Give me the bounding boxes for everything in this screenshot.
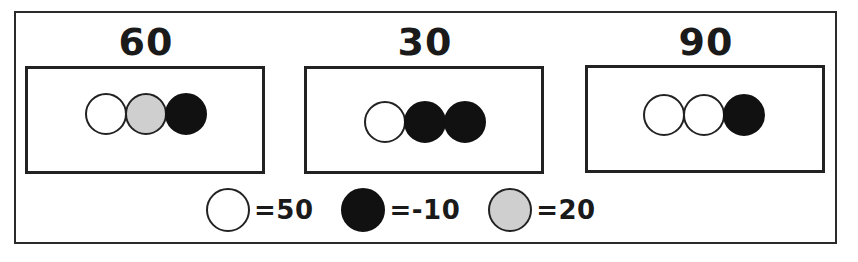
legend-item-white: =50 (206, 188, 313, 232)
white-circle-icon (206, 188, 250, 232)
black-circle-icon (165, 93, 207, 135)
black-circle-icon (404, 101, 446, 143)
gray-circle-icon (488, 188, 532, 232)
white-circle-icon (683, 94, 725, 136)
legend-item-black: =-10 (341, 188, 460, 232)
white-circle-icon (85, 93, 127, 135)
gray-circle-icon (125, 93, 167, 135)
panel-2-box (304, 66, 544, 174)
panel-1-box (25, 66, 265, 174)
legend-label: =-10 (389, 195, 460, 225)
panel-2-value: 30 (305, 22, 545, 62)
panel-3-circles (643, 94, 763, 136)
black-circle-icon (444, 101, 486, 143)
white-circle-icon (364, 101, 406, 143)
white-circle-icon (643, 94, 685, 136)
legend: =50 =-10 =20 (206, 188, 624, 232)
panel-3-value: 90 (586, 22, 826, 62)
black-circle-icon (723, 94, 765, 136)
panel-2-circles (364, 101, 484, 143)
legend-item-gray: =20 (488, 188, 595, 232)
panel-3-box (585, 65, 825, 173)
panel-1-circles (85, 93, 205, 135)
legend-label: =20 (536, 195, 595, 225)
legend-label: =50 (254, 195, 313, 225)
panel-1-value: 60 (26, 22, 266, 62)
black-circle-icon (341, 188, 385, 232)
